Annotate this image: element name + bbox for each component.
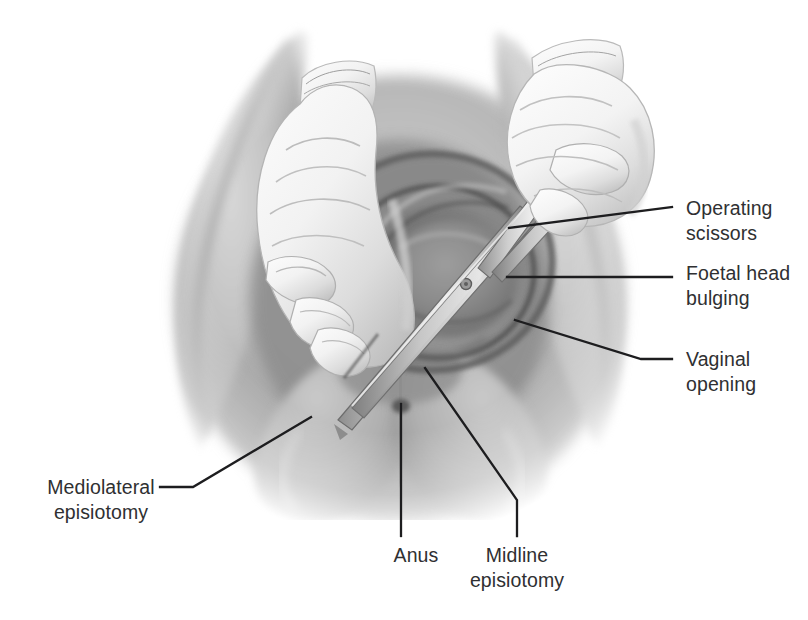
label-operating-scissors: Operating scissors — [686, 196, 773, 246]
label-anus-line1: Anus — [366, 543, 466, 568]
label-vaginal-opening-line2: opening — [686, 372, 756, 397]
label-foetal-head-line2: bulging — [686, 286, 790, 311]
label-mediolateral-episiotomy: Mediolateral episiotomy — [42, 475, 160, 525]
label-operating-scissors-line1: Operating — [686, 196, 773, 221]
label-vaginal-opening-line1: Vaginal — [686, 347, 756, 372]
label-foetal-head-line1: Foetal head — [686, 261, 790, 286]
scissor-pivot-screw — [464, 282, 468, 286]
label-foetal-head-bulging: Foetal head bulging — [686, 261, 790, 311]
label-anus: Anus — [366, 543, 466, 568]
label-mediolateral-line1: Mediolateral — [42, 475, 160, 500]
label-operating-scissors-line2: scissors — [686, 221, 773, 246]
label-midline-line1: Midline — [460, 543, 574, 568]
label-mediolateral-line2: episiotomy — [42, 500, 160, 525]
label-vaginal-opening: Vaginal opening — [686, 347, 756, 397]
label-midline-episiotomy: Midline episiotomy — [460, 543, 574, 593]
figure-root: Operating scissors Foetal head bulging V… — [0, 0, 808, 620]
label-midline-line2: episiotomy — [460, 568, 574, 593]
